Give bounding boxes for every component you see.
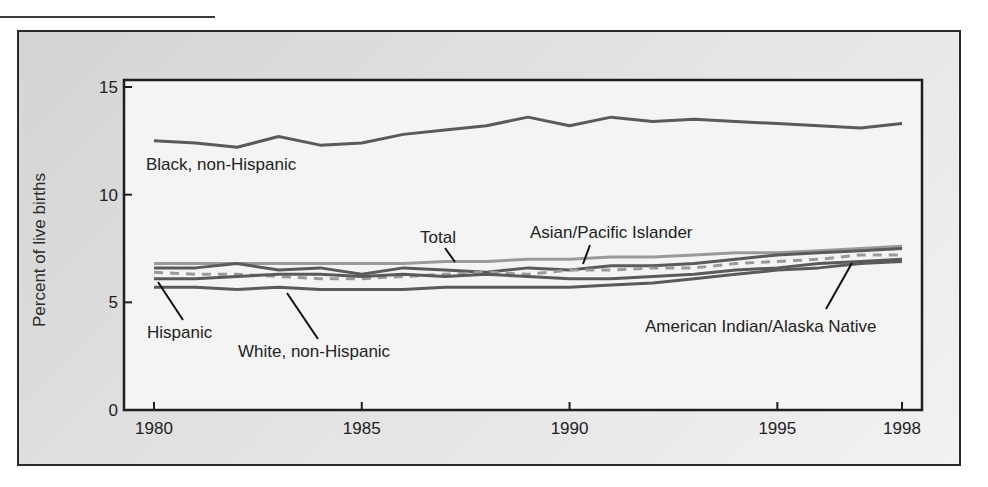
label-white-non-hispanic: White, non-Hispanic xyxy=(238,342,391,361)
label-total: Total xyxy=(420,228,456,247)
x-tick-label: 1990 xyxy=(551,419,589,438)
label-asian-pacific-islander: Asian/Pacific Islander xyxy=(530,223,693,242)
y-tick-label: 10 xyxy=(99,186,118,205)
line-chart: 05101519801985199019951998Black, non-His… xyxy=(0,0,988,487)
y-tick-label: 15 xyxy=(99,78,118,97)
label-american-indian-alaska-native: American Indian/Alaska Native xyxy=(645,317,877,336)
y-tick-label: 0 xyxy=(109,401,118,420)
label-hispanic: Hispanic xyxy=(147,323,213,342)
label-black-non-hispanic: Black, non-Hispanic xyxy=(146,155,297,174)
y-tick-label: 5 xyxy=(109,293,118,312)
x-tick-label: 1995 xyxy=(758,419,796,438)
x-tick-label: 1980 xyxy=(135,419,173,438)
x-tick-label: 1985 xyxy=(343,419,381,438)
x-tick-label: 1998 xyxy=(883,419,921,438)
